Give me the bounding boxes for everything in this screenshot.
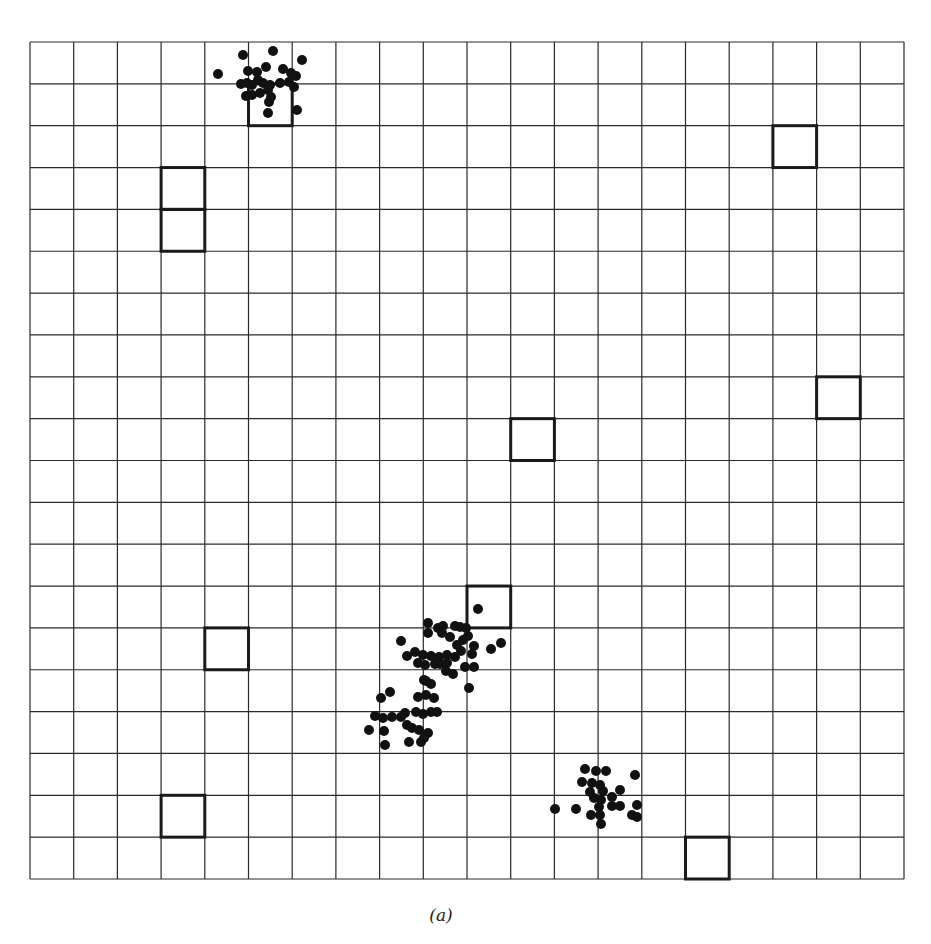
data-point <box>243 66 253 76</box>
data-point <box>632 812 642 822</box>
data-point <box>419 733 429 743</box>
data-point <box>615 801 625 811</box>
data-point <box>404 737 414 747</box>
data-point <box>387 712 397 722</box>
data-point <box>289 82 299 92</box>
data-point <box>632 800 642 810</box>
highlighted-cell <box>686 837 730 879</box>
data-point <box>429 693 439 703</box>
data-point <box>396 636 406 646</box>
data-point <box>448 669 458 679</box>
data-point <box>571 804 581 814</box>
data-point <box>385 687 395 697</box>
data-point <box>238 50 248 60</box>
data-point <box>364 725 374 735</box>
data-point <box>586 810 596 820</box>
data-point <box>432 707 442 717</box>
data-point <box>467 649 477 659</box>
data-point <box>591 766 601 776</box>
data-point <box>601 766 611 776</box>
middle-upper-cluster <box>396 604 506 693</box>
grid-figure <box>0 0 931 944</box>
data-point <box>378 713 388 723</box>
data-point <box>469 662 479 672</box>
data-point <box>297 55 307 65</box>
data-point <box>264 97 274 107</box>
data-point <box>379 726 389 736</box>
data-point <box>263 108 273 118</box>
data-point <box>630 770 640 780</box>
highlighted-cell <box>817 377 861 419</box>
data-point <box>463 631 473 641</box>
data-point <box>464 683 474 693</box>
data-point <box>261 62 271 72</box>
data-point <box>380 740 390 750</box>
data-point <box>213 69 223 79</box>
data-point <box>400 708 410 718</box>
top-cluster <box>213 46 307 118</box>
data-point <box>426 679 436 689</box>
data-point <box>473 604 483 614</box>
data-point <box>598 786 608 796</box>
highlighted-cell <box>773 126 817 168</box>
data-point <box>550 804 560 814</box>
data-point <box>268 46 278 56</box>
data-point <box>577 777 587 787</box>
data-point <box>607 792 617 802</box>
data-point <box>376 693 386 703</box>
data-point <box>460 662 470 672</box>
data-point <box>292 105 302 115</box>
data-point <box>423 628 433 638</box>
highlighted-cell <box>161 795 205 837</box>
highlighted-cell <box>205 628 249 670</box>
data-point <box>595 810 605 820</box>
data-point <box>580 764 590 774</box>
middle-lower-cluster <box>364 675 442 750</box>
highlighted-cell <box>161 168 205 210</box>
data-point <box>615 785 625 795</box>
data-point <box>450 652 460 662</box>
data-point <box>486 644 496 654</box>
data-point <box>596 819 606 829</box>
data-point <box>496 638 506 648</box>
data-point <box>275 78 285 88</box>
bottom-right-cluster <box>550 764 642 829</box>
data-point <box>420 660 430 670</box>
highlighted-cell <box>511 419 555 461</box>
data-point <box>423 618 433 628</box>
highlighted-cell <box>161 209 205 251</box>
data-point <box>445 632 455 642</box>
figure-caption: (a) <box>0 905 882 925</box>
